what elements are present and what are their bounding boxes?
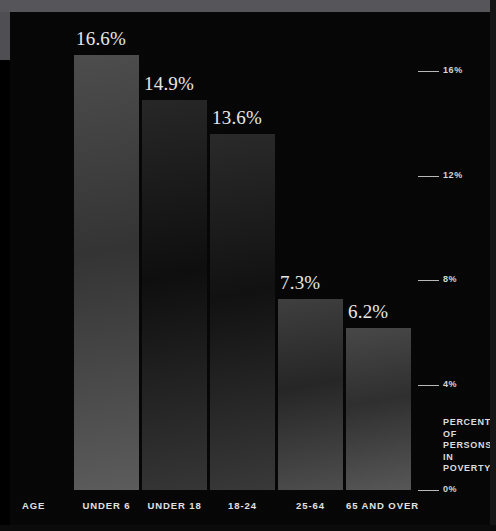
bar-under-6[interactable] bbox=[74, 55, 139, 490]
y-axis-tick-label: 0% bbox=[443, 484, 457, 494]
bar-value-label: 7.3% bbox=[280, 272, 320, 294]
y-axis-tick-mark bbox=[418, 490, 439, 491]
page-right-margin bbox=[490, 0, 496, 531]
y-axis-caption-line: OF bbox=[443, 429, 492, 441]
x-axis-label-25-64: 25-64 bbox=[278, 500, 343, 511]
poverty-by-age-chart: 0%4%8%12%16% PERCENT OF PERSONS IN POVER… bbox=[0, 0, 496, 531]
y-axis-tick-mark bbox=[418, 280, 439, 281]
y-axis-caption-line: PERSONS bbox=[443, 440, 492, 452]
bar-fill bbox=[210, 134, 275, 490]
page-bottom-margin bbox=[0, 525, 496, 531]
bar-value-label: 16.6% bbox=[76, 28, 126, 50]
bar-value-label: 6.2% bbox=[348, 301, 388, 323]
bar-fill bbox=[74, 55, 139, 490]
x-axis-label-65-and-over: 65 AND OVER bbox=[346, 500, 411, 511]
bar-65-and-over[interactable] bbox=[346, 328, 411, 490]
y-axis-caption-line: POVERTY bbox=[443, 463, 492, 475]
x-axis-category-labels: AGE UNDER 6UNDER 1818-2425-6465 AND OVER bbox=[10, 500, 496, 520]
bar-fill bbox=[142, 100, 207, 490]
bar-under-18[interactable] bbox=[142, 100, 207, 490]
y-axis-tick-mark bbox=[418, 176, 439, 177]
plot-area: 16.6%14.9%13.6%7.3%6.2% bbox=[74, 12, 419, 531]
bar-fill bbox=[346, 328, 411, 490]
x-axis-label-under-6: UNDER 6 bbox=[74, 500, 139, 511]
page-corner-notch bbox=[0, 12, 10, 60]
y-axis-tick-label: 12% bbox=[443, 170, 463, 180]
bar-18-24[interactable] bbox=[210, 134, 275, 490]
bar-value-label: 13.6% bbox=[212, 107, 262, 129]
y-axis-tick-label: 8% bbox=[443, 274, 457, 284]
x-axis-label-under-18: UNDER 18 bbox=[142, 500, 207, 511]
y-axis-caption: PERCENT OF PERSONS IN POVERTY bbox=[443, 417, 492, 475]
bar-25-64[interactable] bbox=[278, 299, 343, 490]
chart-panel: 0%4%8%12%16% PERCENT OF PERSONS IN POVER… bbox=[10, 12, 496, 531]
x-axis-label-18-24: 18-24 bbox=[210, 500, 275, 511]
y-axis-tick-label: 16% bbox=[443, 65, 463, 75]
y-axis-caption-line: IN bbox=[443, 452, 492, 464]
x-axis-name: AGE bbox=[22, 500, 45, 511]
page-top-margin bbox=[0, 0, 496, 12]
bar-fill bbox=[278, 299, 343, 490]
y-axis-tick-mark bbox=[418, 71, 439, 72]
y-axis-tick-label: 4% bbox=[443, 379, 457, 389]
bar-value-label: 14.9% bbox=[144, 73, 194, 95]
y-axis-caption-line: PERCENT bbox=[443, 417, 492, 429]
y-axis-tick-mark bbox=[418, 385, 439, 386]
